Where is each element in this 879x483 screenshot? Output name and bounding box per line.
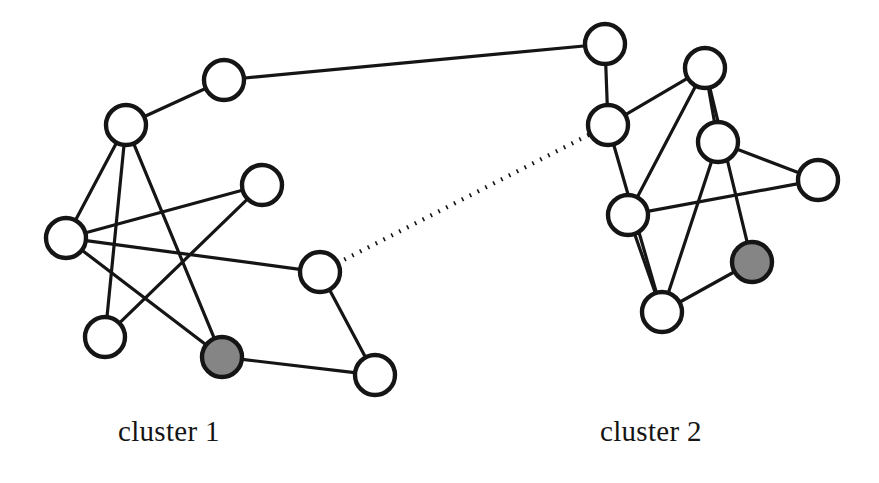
graph-edge: [624, 77, 689, 115]
graph-edge: [668, 160, 712, 295]
graph-node: [204, 60, 244, 100]
graph-node: [588, 105, 628, 145]
graph-edge: [107, 143, 124, 318]
node-layer: [46, 24, 838, 395]
graph-node: [585, 24, 625, 64]
graph-node: [106, 105, 146, 145]
graph-node: [242, 165, 282, 205]
graph-edge: [242, 46, 586, 79]
graph-edge: [606, 62, 608, 106]
graph-edge: [646, 183, 800, 211]
graph-node: [85, 317, 125, 357]
graph-node: [642, 292, 682, 332]
graph-node: [46, 218, 86, 258]
edge-layer: [75, 46, 801, 373]
graph-edge: [634, 232, 656, 294]
graph-edge: [678, 271, 736, 303]
graph-node-filled: [202, 337, 242, 377]
graph-edge: [329, 288, 367, 358]
graph-edge: [709, 86, 747, 244]
graph-node: [608, 195, 648, 235]
graph-edge: [143, 88, 207, 118]
graph-edge: [240, 359, 356, 373]
graph-node: [798, 160, 838, 200]
graph-node: [355, 355, 395, 395]
diagram-root: cluster 1 cluster 2: [0, 0, 879, 483]
graph-edge: [84, 240, 301, 269]
graph-edge: [75, 141, 118, 221]
graph-node-filled: [732, 242, 772, 282]
graph-node: [685, 48, 725, 88]
graph-node: [698, 122, 738, 162]
graph-node: [300, 252, 340, 292]
cluster-2-label: cluster 2: [600, 415, 702, 448]
bridge-edge: [336, 133, 591, 263]
graph-edge: [735, 149, 800, 174]
network-graph: [0, 0, 879, 483]
cluster-1-label: cluster 1: [118, 415, 220, 448]
